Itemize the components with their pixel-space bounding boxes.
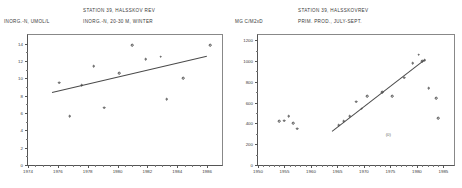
data-point-marker [403, 76, 406, 79]
left-plot-area: 024681012141974197619781980198219841986 [27, 34, 223, 166]
x-axis-minor-tick [295, 165, 296, 167]
y-axis-tick-label: 4 [1, 128, 23, 133]
y-axis-minor-tick [26, 52, 28, 53]
data-point-marker [417, 53, 420, 56]
x-axis-minor-tick [380, 165, 381, 167]
right-chart-title: STATION 39, HALSSKOVREV [298, 8, 368, 13]
x-axis-minor-tick [438, 165, 439, 167]
y-axis-tick-label: 8 [1, 93, 23, 98]
x-axis-tick [147, 165, 148, 168]
y-axis-tick-label: 400 [231, 121, 253, 126]
y-axis-tick [25, 148, 28, 149]
data-point-marker [80, 84, 83, 87]
x-axis-tick-label: 1960 [306, 169, 316, 174]
x-axis-minor-tick [322, 165, 323, 167]
x-axis-tick [207, 165, 208, 168]
x-axis-minor-tick [316, 165, 317, 167]
regression-trend-line [52, 56, 207, 93]
x-axis-tick [417, 165, 418, 168]
x-axis-minor-tick [353, 165, 354, 167]
data-point-marker [296, 127, 299, 130]
y-axis-minor-tick [26, 156, 28, 157]
data-point-marker [118, 72, 121, 75]
data-point-marker [437, 117, 440, 120]
x-axis-minor-tick [65, 165, 66, 167]
data-point-marker [68, 115, 71, 118]
data-point-marker [283, 120, 286, 123]
x-axis-minor-tick [300, 165, 301, 167]
x-axis-minor-tick [103, 165, 104, 167]
data-point-marker [366, 95, 369, 98]
data-point-marker [435, 97, 438, 100]
x-axis-tick [443, 165, 444, 168]
x-axis-minor-tick [433, 165, 434, 167]
x-axis-minor-tick [185, 165, 186, 167]
data-point-marker [337, 124, 340, 127]
x-axis-minor-tick [396, 165, 397, 167]
data-point-marker [424, 59, 427, 62]
data-point-marker [427, 87, 430, 90]
x-axis-tick [258, 165, 259, 168]
y-axis-minor-tick [256, 134, 258, 135]
data-point-marker [103, 107, 106, 110]
x-axis-minor-tick [401, 165, 402, 167]
x-axis-tick [88, 165, 89, 168]
data-point-marker [292, 122, 295, 125]
x-axis-minor-tick [95, 165, 96, 167]
x-axis-minor-tick [274, 165, 275, 167]
right-plot-area: 0200400600800100012001950195519601965197… [257, 34, 455, 166]
x-axis-minor-tick [385, 165, 386, 167]
y-axis-tick [25, 113, 28, 114]
data-point-marker [182, 77, 185, 80]
x-axis-tick [364, 165, 365, 168]
left-chart-subtitle: INORG.-N, 20-30 M, WINTER [83, 19, 153, 24]
x-axis-minor-tick [43, 165, 44, 167]
y-axis-tick-label: 14 [1, 41, 23, 46]
x-axis-tick-label: 1974 [23, 169, 33, 174]
data-point-marker [391, 95, 394, 98]
x-axis-minor-tick [306, 165, 307, 167]
x-axis-minor-tick [110, 165, 111, 167]
x-axis-minor-tick [375, 165, 376, 167]
x-axis-minor-tick [170, 165, 171, 167]
x-axis-minor-tick [406, 165, 407, 167]
data-point-marker [287, 115, 290, 118]
x-axis-tick [337, 165, 338, 168]
data-point-marker [381, 91, 384, 94]
chart-panel-left: STATION 39, HALSSKOV REV INORG.-N, 20-30… [0, 0, 231, 188]
chart-panel-right: STATION 39, HALSSKOVREV PRIM. PROD., JUL… [231, 0, 462, 188]
x-axis-tick-label: 1980 [113, 169, 123, 174]
data-point-marker [160, 55, 163, 58]
x-axis-tick-label: 1955 [280, 169, 290, 174]
x-axis-tick [284, 165, 285, 168]
x-axis-minor-tick [412, 165, 413, 167]
y-axis-tick [25, 61, 28, 62]
y-axis-minor-tick [26, 87, 28, 88]
data-point-marker [165, 98, 168, 101]
data-point-marker [209, 44, 212, 47]
x-axis-minor-tick [73, 165, 74, 167]
x-axis-minor-tick [348, 165, 349, 167]
y-axis-tick-label: 2 [1, 145, 23, 150]
x-axis-tick-label: 1975 [386, 169, 396, 174]
y-axis-tick [255, 144, 258, 145]
right-chart-subtitle: PRIM. PROD., JULY-SEPT. [298, 19, 362, 24]
data-point-marker [58, 81, 61, 84]
data-point-marker [92, 65, 95, 68]
y-axis-tick [25, 130, 28, 131]
data-point-marker [348, 115, 351, 118]
x-axis-minor-tick [132, 165, 133, 167]
x-axis-minor-tick [359, 165, 360, 167]
y-axis-tick [25, 96, 28, 97]
x-axis-tick-label: 1986 [202, 169, 212, 174]
y-axis-tick [255, 82, 258, 83]
x-axis-tick-label: 1950 [253, 169, 263, 174]
x-axis-minor-tick [422, 165, 423, 167]
x-axis-tick-label: 1984 [172, 169, 182, 174]
x-axis-minor-tick [290, 165, 291, 167]
x-axis-minor-tick [80, 165, 81, 167]
figure-container: STATION 39, HALSSKOV REV INORG.-N, 20-30… [0, 0, 462, 188]
x-axis-tick-label: 1965 [333, 169, 343, 174]
data-point-marker [411, 62, 414, 65]
y-axis-tick-label: 6 [1, 111, 23, 116]
